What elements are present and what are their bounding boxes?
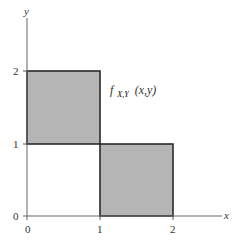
y-tick-label-1: 1: [13, 138, 19, 150]
function-args: (x,y): [135, 83, 157, 97]
y-tick-label-2: 2: [13, 65, 19, 77]
y-tick-label-0: 0: [13, 210, 19, 222]
function-name: f: [110, 83, 115, 97]
joint-density-diagram: y x 2 1 0 0 1 2 f X,Y (x,y): [0, 0, 240, 246]
region-lower-right-square: [100, 144, 173, 216]
function-subscript: X,Y: [116, 90, 130, 99]
y-axis-label: y: [23, 5, 29, 17]
density-function-label: f X,Y (x,y): [110, 80, 156, 100]
x-tick-label-2: 2: [170, 223, 176, 235]
x-tick-label-1: 1: [97, 223, 103, 235]
diagram-canvas: y x 2 1 0 0 1 2 f X,Y (x,y): [0, 0, 240, 246]
x-axis-label: x: [223, 209, 229, 221]
region-upper-left-square: [27, 71, 100, 144]
x-tick-label-0: 0: [25, 223, 31, 235]
